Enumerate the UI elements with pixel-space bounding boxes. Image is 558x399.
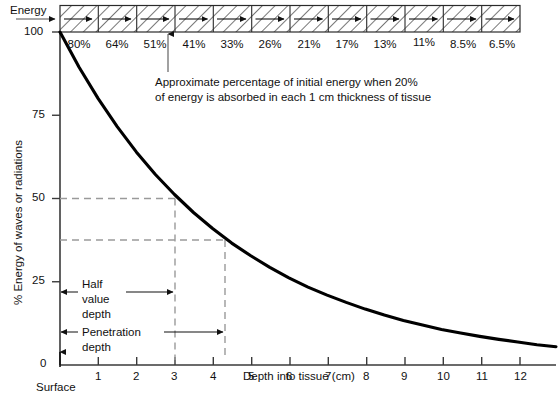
band-annotation-line-2: of energy is absorbed in each 1 cm thick… bbox=[155, 90, 431, 106]
band-label-12cm: 6.5% bbox=[479, 38, 525, 52]
x-axis-title: Depth into tissue (cm) bbox=[243, 370, 355, 384]
penetration-depth-label-line1: Penetration bbox=[82, 325, 141, 341]
band-label-2cm: 64% bbox=[97, 38, 137, 52]
x-tick-label-9: 9 bbox=[401, 370, 407, 384]
y-axis-ticks bbox=[52, 32, 60, 282]
x-tick-label-12: 12 bbox=[514, 370, 527, 384]
band-label-7cm: 21% bbox=[289, 38, 329, 52]
figure-root: Energy 100 75 50 25 0 % Energy of waves … bbox=[0, 0, 558, 399]
band-label-3cm: 51% bbox=[135, 38, 175, 52]
band-label-10cm: 11% bbox=[404, 36, 444, 50]
x-tick-label-4: 4 bbox=[210, 370, 216, 384]
surface-label: Surface bbox=[36, 381, 76, 395]
x-tick-label-3: 3 bbox=[171, 370, 177, 384]
x-tick-label-8: 8 bbox=[363, 370, 369, 384]
x-tick-label-1: 1 bbox=[95, 370, 101, 384]
band-label-5cm: 33% bbox=[212, 38, 252, 52]
band-label-8cm: 17% bbox=[327, 38, 367, 52]
y-tick-label-50: 50 bbox=[32, 191, 45, 205]
x-axis-ticks bbox=[98, 357, 520, 365]
y-tick-label-0: 0 bbox=[40, 357, 46, 371]
half-value-depth-label-line1: Half bbox=[82, 277, 102, 293]
band-label-9cm: 13% bbox=[365, 38, 405, 52]
y-axis-title: % Energy of waves or radiations bbox=[12, 140, 24, 305]
y-tick-label-100: 100 bbox=[24, 25, 43, 39]
absorption-band bbox=[16, 6, 520, 33]
y-tick-label-75: 75 bbox=[32, 108, 45, 122]
x-tick-label-11: 11 bbox=[476, 370, 488, 384]
x-tick-label-10: 10 bbox=[437, 370, 450, 384]
half-value-depth-label-line2: value bbox=[82, 292, 110, 308]
band-label-1cm: 80% bbox=[59, 38, 99, 52]
y-tick-label-25: 25 bbox=[32, 274, 45, 288]
x-tick-label-2: 2 bbox=[133, 370, 139, 384]
band-label-4cm: 41% bbox=[174, 38, 214, 52]
band-label-6cm: 26% bbox=[250, 38, 290, 52]
band-annotation-line-1: Approximate percentage of initial energy… bbox=[155, 75, 418, 91]
energy-label: Energy bbox=[10, 4, 46, 18]
half-value-depth-label-line3: depth bbox=[82, 307, 111, 323]
penetration-depth-label-line2: depth bbox=[82, 340, 111, 356]
